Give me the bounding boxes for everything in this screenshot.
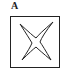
four-pointed-star-icon <box>20 22 53 60</box>
star-in-square-figure <box>0 0 64 72</box>
square-frame <box>11 17 60 68</box>
